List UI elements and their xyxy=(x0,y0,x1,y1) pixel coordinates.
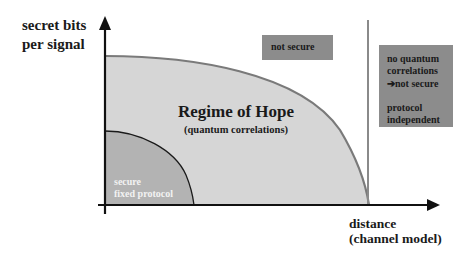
y-axis-label-line1: secret bits xyxy=(22,16,86,35)
no-quantum-correlations-box: no quantum correlations ➔not secure prot… xyxy=(379,45,453,127)
x-axis-arrowhead-icon xyxy=(427,199,440,211)
no-quantum-line1: no quantum xyxy=(387,53,453,65)
secure-label-line1: secure xyxy=(114,176,173,188)
no-quantum-line4: protocol xyxy=(387,102,453,114)
y-axis-arrowhead-icon xyxy=(99,16,111,30)
x-axis-label: distance (channel model) xyxy=(349,216,442,246)
x-axis-label-line1: distance xyxy=(349,216,442,231)
x-axis-label-line2: (channel model) xyxy=(349,231,442,246)
y-axis-label-line2: per signal xyxy=(22,35,86,54)
regime-of-hope-subtitle: (quantum correlations) xyxy=(166,124,306,135)
no-quantum-not-secure: not secure xyxy=(395,78,438,89)
secure-fixed-protocol-label: secure fixed protocol xyxy=(114,176,173,200)
not-secure-label: not secure xyxy=(262,35,333,52)
y-axis-label: secret bits per signal xyxy=(22,16,86,54)
no-quantum-line5: independent xyxy=(387,114,453,126)
no-quantum-line3: ➔not secure xyxy=(387,78,453,90)
not-secure-box: not secure xyxy=(262,35,333,60)
regime-of-hope-title: Regime of Hope xyxy=(166,102,306,122)
right-arrow-icon: ➔ xyxy=(387,78,395,89)
secure-label-line2: fixed protocol xyxy=(114,188,173,200)
spacer xyxy=(387,90,453,102)
no-quantum-line2: correlations xyxy=(387,65,453,77)
